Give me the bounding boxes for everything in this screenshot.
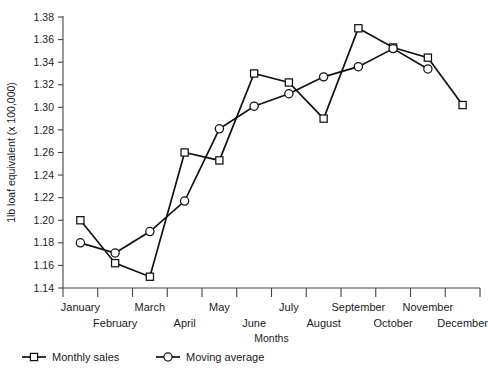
data-point-circle (285, 90, 293, 98)
y-tick-label: 1.24 (34, 169, 55, 181)
x-category-label: December (437, 317, 488, 329)
data-point-circle (354, 63, 362, 71)
x-category-label: October (374, 317, 413, 329)
y-tick-label: 1.32 (34, 78, 55, 90)
data-point-circle (146, 227, 154, 235)
y-tick-label: 1.18 (34, 236, 55, 248)
data-point-circle (250, 102, 258, 110)
legend-item: Moving average (156, 351, 264, 363)
x-category-label: February (93, 317, 138, 329)
series-line-circle (80, 49, 428, 253)
y-axis: 1.141.161.181.201.221.241.261.281.301.32… (34, 11, 63, 294)
y-tick-label: 1.28 (34, 124, 55, 136)
data-series-group (76, 25, 466, 281)
x-category-label: June (242, 317, 266, 329)
x-category-label: July (279, 301, 299, 313)
y-tick-label: 1.26 (34, 146, 55, 158)
data-point-square (251, 70, 258, 77)
x-category-label: September (331, 301, 385, 313)
data-point-circle (215, 125, 223, 133)
line-chart: 1.141.161.181.201.221.241.261.281.301.32… (0, 0, 488, 370)
x-category-label: May (209, 301, 230, 313)
legend-label: Monthly sales (52, 351, 120, 363)
data-point-square (285, 79, 292, 86)
data-point-square (112, 260, 119, 267)
y-tick-label: 1.36 (34, 33, 55, 45)
y-tick-label: 1.30 (34, 101, 55, 113)
data-point-circle (424, 65, 432, 73)
legend-marker-square (30, 353, 37, 360)
x-category-label: November (403, 301, 454, 313)
data-point-square (77, 217, 84, 224)
data-point-square (181, 149, 188, 156)
data-point-square (146, 273, 153, 280)
y-tick-label: 1.38 (34, 11, 55, 23)
data-point-square (355, 25, 362, 32)
legend-label: Moving average (186, 351, 264, 363)
chart-container: 1.141.161.181.201.221.241.261.281.301.32… (0, 0, 488, 370)
x-category-label: January (61, 301, 101, 313)
x-axis (63, 288, 480, 297)
chart-legend: Monthly salesMoving average (22, 351, 264, 363)
axis-labels-group: JanuaryFebruaryMarchAprilMayJuneJulyAugu… (5, 82, 488, 344)
legend-marker-circle (164, 353, 172, 361)
data-point-circle (389, 45, 397, 53)
data-point-circle (181, 197, 189, 205)
x-axis-title: Months (254, 332, 288, 344)
x-category-label: August (307, 317, 341, 329)
data-point-circle (76, 239, 84, 247)
data-point-square (320, 115, 327, 122)
y-axis-title: 1lb loaf equivalent (x 100,000) (5, 82, 17, 223)
data-point-square (216, 157, 223, 164)
data-point-circle (320, 73, 328, 81)
y-tick-label: 1.16 (34, 259, 55, 271)
legend-item: Monthly sales (22, 351, 120, 363)
x-category-label: April (174, 317, 196, 329)
y-tick-label: 1.34 (34, 56, 55, 68)
data-point-square (459, 101, 466, 108)
x-category-label: March (135, 301, 166, 313)
y-tick-label: 1.14 (34, 282, 55, 294)
y-tick-label: 1.20 (34, 214, 55, 226)
data-point-circle (111, 249, 119, 257)
y-tick-label: 1.22 (34, 191, 55, 203)
data-point-square (424, 54, 431, 61)
